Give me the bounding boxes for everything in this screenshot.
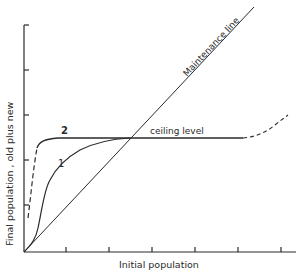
curve-2-dashed (28, 148, 37, 218)
ceiling-dashed-rise (243, 115, 288, 138)
curve-2-label: 2 (61, 125, 68, 136)
population-chart: Maintenance line ceiling level 1 2 Initi… (0, 0, 302, 276)
chart-canvas: Maintenance line ceiling level 1 2 Initi… (0, 0, 302, 276)
maintenance-line-label: Maintenance line (181, 15, 241, 78)
ceiling-level-label: ceiling level (150, 126, 204, 136)
x-axis-label: Initial population (119, 259, 199, 270)
curve-1-label: 1 (58, 158, 64, 169)
y-axis-label: Final population , old plus new (4, 101, 15, 246)
